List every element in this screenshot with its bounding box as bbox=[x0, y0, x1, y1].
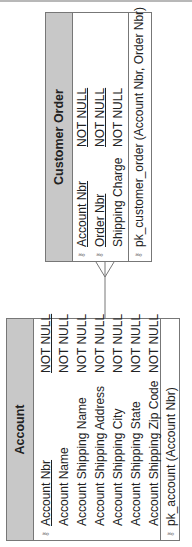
entity-customer-order-title: Customer Order bbox=[46, 13, 73, 261]
entity-customer-order: Customer Order ⚷ Account Nbr NOT NULL ⚷ … bbox=[45, 12, 152, 262]
er-diagram: Account ⚷ Account Nbr NOT NULL Account N… bbox=[0, 0, 192, 547]
attribute-row: Shipping Charge NOT NULL bbox=[109, 13, 127, 261]
attribute-constraint: NOT NULL bbox=[91, 88, 109, 147]
attribute-constraint: NOT NULL bbox=[73, 88, 91, 147]
attribute-name: Shipping Charge bbox=[109, 158, 127, 247]
attribute-row: ⚷ Account Nbr NOT NULL bbox=[73, 13, 91, 261]
entity-customer-order-key-section: ⚷ pk_customer_order (Account Nbr, Order … bbox=[129, 13, 151, 261]
primary-key-constraint: pk_customer_order (Account Nbr, Order Nb… bbox=[132, 7, 146, 247]
key-icon: ⚷ bbox=[73, 252, 91, 258]
key-icon: ⚷ bbox=[91, 252, 109, 258]
entity-customer-order-attributes: ⚷ Account Nbr NOT NULL ⚷ Order Nbr NOT N… bbox=[73, 13, 129, 261]
attribute-row: ⚷ Order Nbr NOT NULL bbox=[91, 13, 109, 261]
attribute-constraint: NOT NULL bbox=[109, 88, 127, 147]
attribute-name: Account Nbr bbox=[73, 181, 91, 247]
attribute-name: Order Nbr bbox=[91, 194, 109, 247]
key-icon: ⚷ bbox=[134, 252, 143, 258]
